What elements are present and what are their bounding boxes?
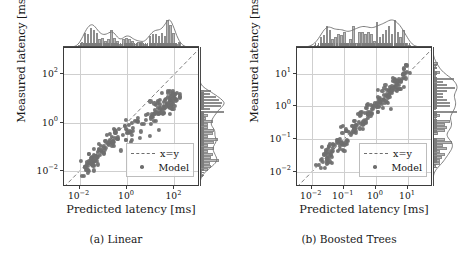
legend-label-model: Model bbox=[388, 162, 423, 173]
y-tick bbox=[60, 170, 63, 171]
gridline-horizontal bbox=[297, 139, 431, 140]
x-tick-label: 100 bbox=[118, 190, 134, 201]
legend-label-xy: x=y bbox=[156, 148, 179, 159]
y-tick-label: 10−2 bbox=[32, 165, 58, 176]
y-tick-label: 100 bbox=[32, 116, 58, 127]
right-histogram-b bbox=[433, 47, 462, 186]
top-histogram-b bbox=[296, 15, 432, 47]
dashed-line-icon bbox=[363, 153, 389, 154]
dashed-line-icon bbox=[130, 153, 156, 154]
gridline-vertical bbox=[312, 48, 313, 185]
gridline-vertical bbox=[80, 48, 81, 185]
y-axis-label-b: Measured latency [ms] bbox=[248, 0, 261, 129]
x-tick-label: 101 bbox=[399, 190, 415, 201]
y-tick-label: 102 bbox=[32, 68, 58, 79]
legend-entry-xy: x=y bbox=[130, 146, 189, 160]
histogram-baseline bbox=[200, 47, 201, 186]
y-tick bbox=[293, 138, 296, 139]
legend-label-model: Model bbox=[155, 162, 190, 173]
x-tick-label: 10−2 bbox=[68, 190, 89, 201]
x-tick-label: 102 bbox=[165, 190, 181, 201]
histogram-baseline bbox=[433, 47, 434, 186]
y-tick bbox=[293, 171, 296, 172]
y-tick bbox=[293, 105, 296, 106]
y-tick-label: 101 bbox=[265, 67, 291, 78]
legend-entry-model: Model bbox=[130, 160, 189, 174]
panel-linear: Measured latency [ms] 10−210010210210010… bbox=[0, 0, 232, 262]
kde-curve bbox=[433, 47, 462, 186]
kde-curve bbox=[200, 47, 229, 186]
panel-boosted-trees: Measured latency [ms] 10−210−11001011011… bbox=[233, 0, 465, 262]
y-tick-label: 10−2 bbox=[265, 165, 291, 176]
y-tick bbox=[60, 122, 63, 123]
y-tick-label: 10−1 bbox=[265, 133, 291, 144]
figure-root: Measured latency [ms] 10−210010210210010… bbox=[0, 0, 465, 262]
y-tick bbox=[293, 73, 296, 74]
y-tick bbox=[60, 73, 63, 74]
kde-curve bbox=[63, 15, 199, 47]
legend-label-xy: x=y bbox=[389, 148, 412, 159]
x-tick bbox=[126, 186, 127, 189]
x-axis-label-b: Predicted latency [ms] bbox=[276, 203, 452, 216]
top-histogram-a bbox=[63, 15, 199, 47]
dot-marker-icon bbox=[363, 165, 388, 169]
legend-entry-model: Model bbox=[363, 160, 422, 174]
y-axis-label-a: Measured latency [ms] bbox=[15, 0, 28, 129]
x-tick-label: 10−1 bbox=[332, 190, 353, 201]
x-tick bbox=[375, 186, 376, 189]
legend-a: x=y Model bbox=[126, 143, 194, 177]
legend-entry-xy: x=y bbox=[363, 146, 422, 160]
x-axis-label-a: Predicted latency [ms] bbox=[43, 203, 219, 216]
x-tick bbox=[173, 186, 174, 189]
gridline-horizontal bbox=[64, 74, 198, 75]
x-tick-label: 100 bbox=[367, 190, 383, 201]
dot-marker-icon bbox=[130, 165, 155, 169]
gridline-vertical bbox=[344, 48, 345, 185]
right-histogram-a bbox=[200, 47, 229, 186]
legend-b: x=y Model bbox=[359, 143, 427, 177]
x-tick bbox=[407, 186, 408, 189]
caption-b: (b) Boosted Trees bbox=[233, 233, 465, 245]
caption-a: (a) Linear bbox=[0, 233, 232, 245]
y-tick-label: 100 bbox=[265, 100, 291, 111]
kde-curve bbox=[296, 15, 432, 47]
x-tick-label: 10−2 bbox=[300, 190, 321, 201]
